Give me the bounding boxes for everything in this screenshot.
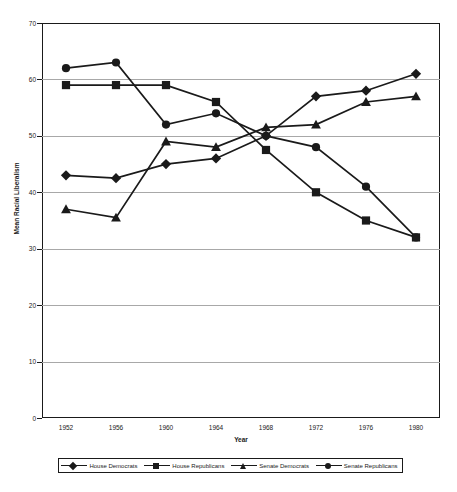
- y-tick-mark: [37, 192, 42, 193]
- y-tick-mark: [37, 362, 42, 363]
- y-tick-label: 20: [12, 302, 36, 309]
- gridline: [42, 79, 440, 80]
- gridline: [42, 362, 440, 363]
- y-tick-mark: [37, 249, 42, 250]
- square-marker-icon: [144, 461, 170, 470]
- y-tick-mark: [37, 136, 42, 137]
- legend-label: Senate Republicans: [344, 463, 400, 469]
- legend-label: House Democrats: [89, 463, 139, 469]
- legend-marker: [240, 463, 246, 469]
- gridline: [42, 249, 440, 250]
- chart-title: [0, 0, 457, 9]
- x-tick-label: 1972: [296, 424, 336, 432]
- y-tick-label: 0: [12, 415, 36, 422]
- legend-item: House Democrats: [61, 461, 139, 470]
- y-tick-label: 70: [12, 20, 36, 27]
- chart-container: 010203040506070 195219561960196419681972…: [0, 0, 457, 492]
- plot-area: [42, 23, 440, 418]
- y-tick-mark: [37, 305, 42, 306]
- legend-marker: [69, 461, 77, 469]
- x-tick-label: 1952: [46, 424, 86, 432]
- y-axis-title: Mean Racial Liberalism: [13, 139, 20, 259]
- x-tick-label: 1976: [346, 424, 386, 432]
- x-tick-label: 1968: [246, 424, 286, 432]
- gridline: [42, 305, 440, 306]
- y-tick-mark: [37, 79, 42, 80]
- x-tick-label: 1960: [146, 424, 186, 432]
- gridline: [42, 136, 440, 137]
- x-tick-label: 1964: [196, 424, 236, 432]
- legend: House DemocratsHouse RepublicansSenate D…: [58, 458, 403, 473]
- y-tick-mark: [37, 23, 42, 24]
- y-tick-label: 60: [12, 76, 36, 83]
- y-tick-mark: [37, 418, 42, 419]
- diamond-marker-icon: [61, 461, 87, 470]
- legend-item: Senate Democrats: [231, 461, 311, 470]
- legend-item: House Republicans: [144, 461, 226, 470]
- legend-label: Senate Democrats: [259, 463, 311, 469]
- legend-marker: [325, 463, 331, 469]
- legend-item: Senate Republicans: [316, 461, 400, 470]
- x-axis-title: Year: [42, 436, 440, 443]
- x-tick-label: 1956: [96, 424, 136, 432]
- legend-marker: [153, 463, 159, 469]
- legend-label: House Republicans: [172, 463, 226, 469]
- y-tick-label: 10: [12, 358, 36, 365]
- triangle-marker-icon: [231, 461, 257, 470]
- gridline: [42, 192, 440, 193]
- x-tick-label: 1980: [396, 424, 436, 432]
- circle-marker-icon: [316, 461, 342, 470]
